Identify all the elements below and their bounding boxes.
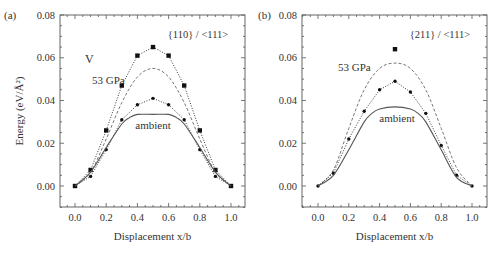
y-tick-label: 0.08 — [37, 10, 55, 21]
circle-marker — [167, 103, 170, 106]
x-tick-label: 0.6 — [404, 212, 417, 223]
y-tick-label: 0.04 — [37, 95, 56, 106]
x-tick-label: 0.2 — [100, 212, 113, 223]
square-marker — [104, 128, 108, 132]
label-ambient: ambient — [135, 119, 170, 131]
panel-title: {211} / <111> — [410, 29, 470, 40]
circle-marker — [136, 103, 139, 106]
x-tick-label: 0.0 — [311, 212, 324, 223]
circle-marker — [424, 112, 427, 115]
x-tick-label: 0.0 — [68, 212, 81, 223]
y-tick-label: 0.02 — [37, 138, 55, 149]
panel-label: (b) — [258, 9, 271, 22]
data-line-dotted — [75, 98, 231, 186]
x-tick-label: 0.2 — [342, 212, 355, 223]
data-line-dotted — [75, 47, 231, 186]
square-marker — [151, 45, 155, 49]
x-tick-label: 0.4 — [131, 212, 145, 223]
circle-marker — [151, 97, 154, 100]
x-tick-label: 1.0 — [224, 212, 237, 223]
y-tick-label: 0.04 — [279, 95, 298, 106]
panel-title: {110} / <111> — [168, 29, 228, 40]
y-tick-label: 0.06 — [279, 52, 297, 63]
plot-frame — [60, 15, 245, 207]
panel-label: (a) — [4, 9, 17, 22]
x-axis-label: Displacement x/b — [114, 230, 192, 242]
circle-marker — [378, 88, 381, 91]
element-label: V — [85, 52, 94, 66]
x-axis-label: Displacement x/b — [356, 230, 434, 242]
y-tick-label: 0.02 — [279, 138, 297, 149]
square-marker — [393, 47, 397, 51]
label-ambient: ambient — [379, 112, 414, 124]
square-marker — [135, 53, 139, 57]
x-tick-label: 0.8 — [435, 212, 448, 223]
y-axis-label: Energy (eV/Å²) — [13, 76, 26, 145]
figure: 0.000.020.040.060.080.00.20.40.60.81.0Di… — [0, 0, 498, 254]
y-tick-label: 0.00 — [37, 181, 55, 192]
square-marker — [182, 83, 186, 87]
chart-canvas: 0.000.020.040.060.080.00.20.40.60.81.0Di… — [0, 0, 498, 254]
panel-b: 0.000.020.040.060.080.00.20.40.60.81.0Di… — [258, 9, 487, 242]
circle-marker — [183, 118, 186, 121]
circle-marker — [89, 175, 92, 178]
x-tick-label: 0.8 — [193, 212, 206, 223]
x-tick-label: 1.0 — [465, 212, 478, 223]
y-tick-label: 0.00 — [279, 181, 297, 192]
label-53gpa: 53 GPa — [338, 61, 371, 73]
x-tick-label: 0.6 — [162, 212, 175, 223]
circle-marker — [363, 109, 366, 112]
circle-marker — [347, 137, 350, 140]
square-marker — [198, 128, 202, 132]
circle-marker — [393, 80, 396, 83]
circle-marker — [409, 90, 412, 93]
circle-marker — [214, 175, 217, 178]
x-tick-label: 0.4 — [373, 212, 387, 223]
data-line-dotted — [318, 81, 472, 186]
square-marker — [166, 53, 170, 57]
panel-a: 0.000.020.040.060.080.00.20.40.60.81.0Di… — [4, 9, 245, 242]
circle-marker — [120, 118, 123, 121]
y-tick-label: 0.06 — [37, 52, 55, 63]
y-tick-label: 0.08 — [279, 10, 297, 21]
label-53gpa: 53 GPa — [92, 74, 125, 86]
